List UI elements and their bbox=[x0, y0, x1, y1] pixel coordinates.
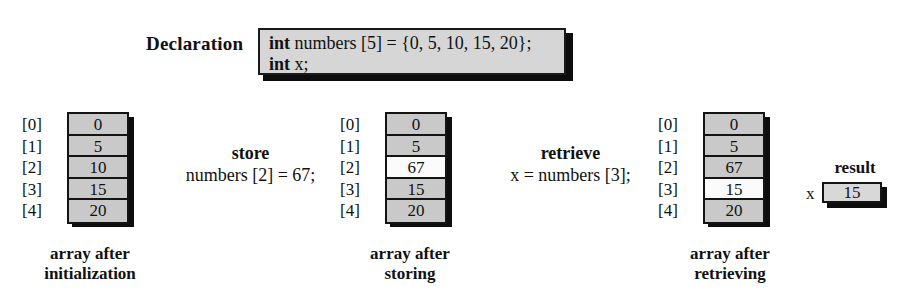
array-index: [2] bbox=[22, 157, 62, 179]
retrieve-operation: retrieve x = numbers [3]; bbox=[483, 142, 658, 187]
array-cell: 10 bbox=[69, 157, 127, 179]
array-cell: 5 bbox=[705, 136, 763, 158]
declaration-keyword-2: int bbox=[269, 54, 290, 74]
array-index: [2] bbox=[658, 157, 698, 179]
declaration-line-2: int x; bbox=[269, 54, 564, 75]
array-index: [2] bbox=[340, 157, 380, 179]
array-cell: 0 bbox=[387, 114, 445, 136]
declaration-text-1: numbers [5] = {0, 5, 10, 15, 20}; bbox=[290, 33, 531, 53]
array-cell: 20 bbox=[705, 200, 763, 222]
array-index: [1] bbox=[22, 136, 62, 158]
array-cell: 20 bbox=[69, 200, 127, 222]
caption-line: storing bbox=[330, 264, 490, 284]
declaration-line-1: int numbers [5] = {0, 5, 10, 15, 20}; bbox=[269, 33, 564, 54]
array-index: [0] bbox=[22, 114, 62, 136]
store-operation: store numbers [2] = 67; bbox=[163, 142, 338, 187]
array-index-column-2: [0] [1] [2] [3] [4] bbox=[340, 114, 380, 222]
declaration-code-box: int numbers [5] = {0, 5, 10, 15, 20}; in… bbox=[258, 28, 566, 75]
array-index: [0] bbox=[340, 114, 380, 136]
array-index: [4] bbox=[340, 200, 380, 222]
array-index: [4] bbox=[658, 200, 698, 222]
array-caption-initialization: array after initialization bbox=[10, 244, 170, 283]
result-variable-label: x bbox=[806, 184, 815, 204]
declaration-text-2: x; bbox=[290, 54, 309, 74]
caption-line: array after bbox=[330, 244, 490, 264]
array-index: [3] bbox=[22, 179, 62, 201]
array-cell-highlighted: 67 bbox=[387, 157, 445, 179]
array-cell: 0 bbox=[705, 114, 763, 136]
caption-line: array after bbox=[10, 244, 170, 264]
array-cells-1: 0 5 10 15 20 bbox=[67, 112, 129, 224]
retrieve-operation-title: retrieve bbox=[483, 142, 658, 164]
array-cell: 20 bbox=[387, 200, 445, 222]
array-index-column-3: [0] [1] [2] [3] [4] bbox=[658, 114, 698, 222]
result-value-box: 15 bbox=[822, 182, 882, 203]
array-cells-3: 0 5 67 15 20 bbox=[703, 112, 765, 224]
array-index-column-1: [0] [1] [2] [3] [4] bbox=[22, 114, 62, 222]
array-cell-highlighted: 15 bbox=[705, 179, 763, 201]
array-index: [0] bbox=[658, 114, 698, 136]
array-cell: 67 bbox=[705, 157, 763, 179]
array-cell: 5 bbox=[69, 136, 127, 158]
array-after-retrieving: [0] [1] [2] [3] [4] 0 5 67 15 20 bbox=[658, 112, 778, 228]
array-after-storing: [0] [1] [2] [3] [4] 0 5 67 15 20 bbox=[340, 112, 460, 228]
array-after-initialization: [0] [1] [2] [3] [4] 0 5 10 15 20 bbox=[22, 112, 142, 228]
caption-line: initialization bbox=[10, 264, 170, 284]
array-caption-storing: array after storing bbox=[330, 244, 490, 283]
caption-line: retrieving bbox=[645, 264, 815, 284]
array-cell: 0 bbox=[69, 114, 127, 136]
array-index: [3] bbox=[340, 179, 380, 201]
array-cells-2: 0 5 67 15 20 bbox=[385, 112, 447, 224]
array-index: [3] bbox=[658, 179, 698, 201]
store-operation-code: numbers [2] = 67; bbox=[163, 164, 338, 187]
caption-line: array after bbox=[645, 244, 815, 264]
array-cell: 5 bbox=[387, 136, 445, 158]
declaration-label: Declaration bbox=[146, 33, 243, 55]
result-label: result bbox=[822, 158, 888, 178]
array-index: [4] bbox=[22, 200, 62, 222]
retrieve-operation-code: x = numbers [3]; bbox=[483, 164, 658, 187]
array-index: [1] bbox=[340, 136, 380, 158]
store-operation-title: store bbox=[163, 142, 338, 164]
array-caption-retrieving: array after retrieving bbox=[645, 244, 815, 283]
declaration-keyword-1: int bbox=[269, 33, 290, 53]
array-cell: 15 bbox=[69, 179, 127, 201]
array-cell: 15 bbox=[387, 179, 445, 201]
array-index: [1] bbox=[658, 136, 698, 158]
